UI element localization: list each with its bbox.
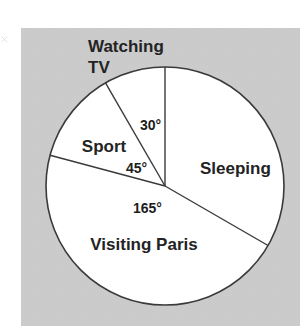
pie-chart-figure: Sleeping Visiting Paris Sport Watching T… bbox=[0, 0, 308, 332]
slice-label-sleeping: Sleeping bbox=[200, 159, 271, 178]
slice-label-visiting-paris: Visiting Paris bbox=[90, 235, 197, 254]
angle-label-sport: 45° bbox=[126, 160, 147, 176]
slice-label-watching-tv-line1: Watching bbox=[88, 37, 164, 56]
slice-label-sport: Sport bbox=[82, 137, 127, 156]
pie-chart-svg: Sleeping Visiting Paris Sport Watching T… bbox=[0, 0, 308, 332]
angle-label-visiting-paris: 165° bbox=[133, 200, 162, 216]
angle-label-watching-tv: 30° bbox=[140, 117, 161, 133]
slice-label-watching-tv-line2: TV bbox=[88, 58, 110, 77]
